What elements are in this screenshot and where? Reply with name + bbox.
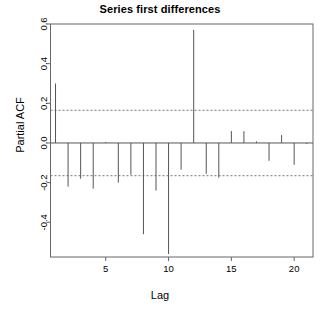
y-axis-tick-label: 0.0 [38,136,49,149]
x-axis-tick-label: 5 [103,263,108,274]
pacf-chart: Series first differences Partial ACF Lag… [0,0,320,311]
y-axis-tick-label: 0.2 [38,97,49,110]
y-axis-tick-label: 0.4 [38,57,49,70]
plot-box-border [51,24,314,257]
y-axis-tick-label: -0.4 [38,214,49,230]
y-axis-tick-label: 0.6 [38,17,49,30]
x-axis-tick-label: 10 [163,263,174,274]
y-axis-tick-label: -0.2 [38,174,49,190]
x-axis-tick-label: 20 [289,263,300,274]
x-axis-tick-label: 15 [226,263,237,274]
plot-area: 0.60.40.20.0-0.2-0.45101520 [0,0,320,311]
